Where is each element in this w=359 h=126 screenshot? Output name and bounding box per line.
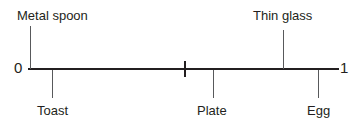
axis-start-label: 0 (14, 60, 22, 75)
leader-tick-egg (318, 70, 319, 98)
callout-label-toast: Toast (37, 103, 68, 118)
axis-end-label: 1 (340, 60, 348, 75)
callout-label-metal-spoon: Metal spoon (17, 8, 88, 23)
axis-midpoint-tick (184, 61, 186, 77)
leader-tick-metal-spoon (30, 26, 31, 69)
leader-tick-plate (213, 70, 214, 98)
leader-tick-thin-glass (283, 30, 284, 69)
callout-label-thin-glass: Thin glass (253, 8, 312, 23)
number-line-figure: 0 1 Metal spoon Thin glass Toast Plate E… (0, 0, 359, 126)
leader-tick-toast (52, 70, 53, 98)
callout-label-plate: Plate (197, 103, 227, 118)
callout-label-egg: Egg (307, 103, 330, 118)
